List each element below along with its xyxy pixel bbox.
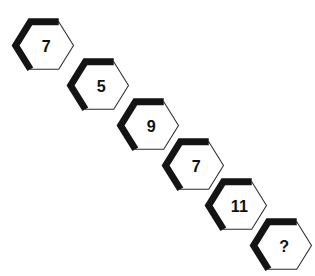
hexagon-label: ? [279,237,289,255]
hexagon-sequence-diagram: 759711? [0,0,315,276]
hexagon-label: 7 [42,37,51,55]
hexagon-label: 7 [192,157,201,175]
hexagon-label: 11 [231,197,249,215]
hexagon-6-unknown: ? [250,217,315,273]
hexagon-shape: ? [250,217,315,273]
hexagon-label: 9 [147,117,156,135]
hexagon-label: 5 [97,77,106,95]
